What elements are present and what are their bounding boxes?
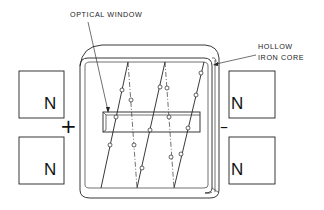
wire-paths xyxy=(101,62,204,188)
magnet-left-bottom: N xyxy=(19,137,64,184)
hollow-iron-core-label-line2: IRON CORE xyxy=(258,53,304,62)
magnet-right-top: N xyxy=(229,71,275,118)
optical-window-label: OPTICAL WINDOW xyxy=(70,10,142,19)
magnet-right-bottom: N xyxy=(229,137,275,184)
pole-label: N xyxy=(44,160,56,179)
positive-sign: + xyxy=(60,114,77,138)
magnetic-cell-diagram: OPTICAL WINDOW HOLLOW IRON CORE N N N N … xyxy=(0,0,324,210)
hollow-iron-core-label-line1: HOLLOW xyxy=(258,42,293,51)
pole-label: N xyxy=(231,160,243,179)
beads xyxy=(108,71,203,170)
magnet-left-top: N xyxy=(19,71,64,118)
iron-core-frame xyxy=(80,45,219,198)
negative-sign: – xyxy=(220,117,228,136)
pole-label: N xyxy=(44,94,56,113)
optical-window-leader xyxy=(88,22,110,113)
pole-label: N xyxy=(231,94,243,113)
